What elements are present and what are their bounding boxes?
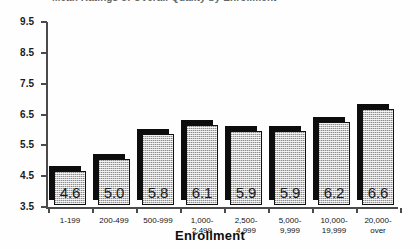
- y-tick-mark: [41, 52, 47, 54]
- y-tick-mark: [41, 144, 47, 146]
- chart-title-cropped: Mean Ratings of Overall Quality by Enrol…: [52, 0, 370, 4]
- bar: 5.8: [142, 134, 174, 205]
- x-tick-mark: [312, 208, 314, 213]
- x-tick-mark: [268, 208, 270, 213]
- x-tick-mark: [224, 208, 226, 213]
- category-label: 500-999: [136, 216, 180, 226]
- y-tick-mark: [41, 206, 47, 208]
- y-tick-label: 4.5: [0, 171, 34, 181]
- y-tick-mark: [41, 175, 47, 177]
- y-tick-mark: [41, 21, 47, 23]
- y-tick-label: 5.5: [0, 140, 34, 150]
- bar-value-label: 6.2: [318, 185, 350, 200]
- bar-value-label: 5.8: [142, 185, 174, 200]
- x-tick-mark: [400, 208, 402, 213]
- category-label: 1-199: [48, 216, 92, 226]
- bar-value-label: 5.9: [274, 185, 306, 200]
- bar: 6.6: [362, 109, 394, 205]
- x-tick-mark: [136, 208, 138, 213]
- x-tick-mark: [180, 208, 182, 213]
- bar-value-label: 6.6: [362, 185, 394, 200]
- y-tick-label: 7.5: [0, 79, 34, 89]
- y-tick-label: 3.5: [0, 202, 34, 212]
- y-tick-mark: [41, 83, 47, 85]
- bar: 6.1: [186, 125, 218, 205]
- bar-value-label: 5.9: [230, 185, 262, 200]
- bar-chart-figure: Mean Ratings of Overall Quality by Enrol…: [0, 0, 420, 249]
- x-tick-mark: [92, 208, 94, 213]
- x-axis-line: [46, 207, 398, 209]
- bar: 6.2: [318, 122, 350, 205]
- x-tick-mark: [356, 208, 358, 213]
- x-axis-title: Enrollment: [0, 228, 420, 243]
- bar-value-label: 6.1: [186, 185, 218, 200]
- bar: 4.6: [54, 171, 86, 205]
- bar-value-label: 4.6: [54, 185, 86, 200]
- bar: 5.9: [230, 131, 262, 205]
- bar-value-label: 5.0: [98, 185, 130, 200]
- plot-area: 9.58.57.56.55.54.53.5 4.65.05.86.15.95.9…: [46, 22, 398, 207]
- bar: 5.9: [274, 131, 306, 205]
- y-tick-mark: [41, 114, 47, 116]
- category-label: 200-499: [92, 216, 136, 226]
- y-tick-label: 9.5: [0, 17, 34, 27]
- chart-title-text: Mean Ratings of Overall Quality by Enrol…: [52, 0, 370, 3]
- y-tick-label: 6.5: [0, 110, 34, 120]
- x-tick-mark: [48, 208, 50, 213]
- y-tick-label: 8.5: [0, 48, 34, 58]
- bar: 5.0: [98, 159, 130, 205]
